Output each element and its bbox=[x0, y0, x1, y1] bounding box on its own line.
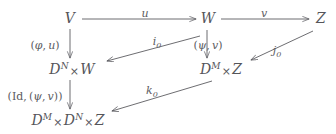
arrow-label-i0: i0 bbox=[153, 36, 162, 50]
arrow-label-phi-u: (φ, u) bbox=[30, 40, 59, 51]
times-icon: × bbox=[221, 64, 232, 77]
paren-close: ) bbox=[58, 90, 62, 103]
dn-exponent: N bbox=[75, 112, 83, 122]
k-subscript: 0 bbox=[153, 90, 158, 99]
arrow-label-j0: j0 bbox=[273, 45, 282, 59]
times-icon: × bbox=[69, 64, 80, 77]
node-dm-times-dn-times-z: DM×DN×Z bbox=[31, 113, 104, 128]
node-w: W bbox=[201, 11, 216, 25]
j-subscript: 0 bbox=[276, 50, 281, 59]
times-icon: × bbox=[83, 115, 94, 128]
edge-dm-z-to-dm-dn-z bbox=[112, 81, 212, 111]
edge-z-to-dm-z bbox=[251, 31, 313, 60]
node-v: V bbox=[65, 11, 75, 25]
id-symbol: Id bbox=[12, 90, 23, 103]
dm-exponent: M bbox=[43, 112, 52, 122]
u-symbol: u bbox=[48, 39, 55, 52]
dn-exponent: N bbox=[61, 61, 69, 71]
dm-exponent: M bbox=[211, 61, 220, 71]
phi-symbol: φ bbox=[35, 39, 43, 52]
arrow-label-v-text: v bbox=[261, 7, 267, 20]
node-dn-times-w: DN×W bbox=[49, 62, 95, 77]
arrow-label-v: v bbox=[261, 8, 267, 19]
k-symbol: k bbox=[146, 84, 153, 97]
z-tail: Z bbox=[95, 112, 105, 128]
arrow-label-u: u bbox=[141, 8, 148, 19]
dn-base: D bbox=[64, 112, 75, 128]
dn-base: D bbox=[49, 61, 60, 77]
i-subscript: 0 bbox=[156, 41, 161, 50]
arrow-label-k0: k0 bbox=[146, 85, 158, 99]
psi-symbol: ψ bbox=[198, 39, 207, 52]
dm-tail: Z bbox=[232, 61, 242, 77]
arrow-label-id-psi-v: (Id, (ψ, v)) bbox=[8, 91, 63, 102]
commutative-diagram: V W Z DN×W DM×Z DM×DN×Z u v (φ, u) i0 (ψ… bbox=[0, 0, 336, 134]
arrow-label-psi-v: (ψ, v) bbox=[193, 40, 222, 51]
arrow-label-u-text: u bbox=[141, 7, 148, 20]
node-z: Z bbox=[316, 11, 326, 25]
dm-base: D bbox=[31, 112, 42, 128]
paren-close: ) bbox=[218, 39, 222, 52]
node-w-label: W bbox=[201, 10, 216, 26]
dm-base: D bbox=[200, 61, 211, 77]
node-v-label: V bbox=[65, 10, 75, 26]
paren-close: ) bbox=[55, 39, 59, 52]
dn-tail: W bbox=[80, 61, 95, 77]
node-z-label: Z bbox=[316, 10, 326, 26]
node-dm-times-z: DM×Z bbox=[200, 62, 242, 77]
times-icon: × bbox=[52, 115, 63, 128]
